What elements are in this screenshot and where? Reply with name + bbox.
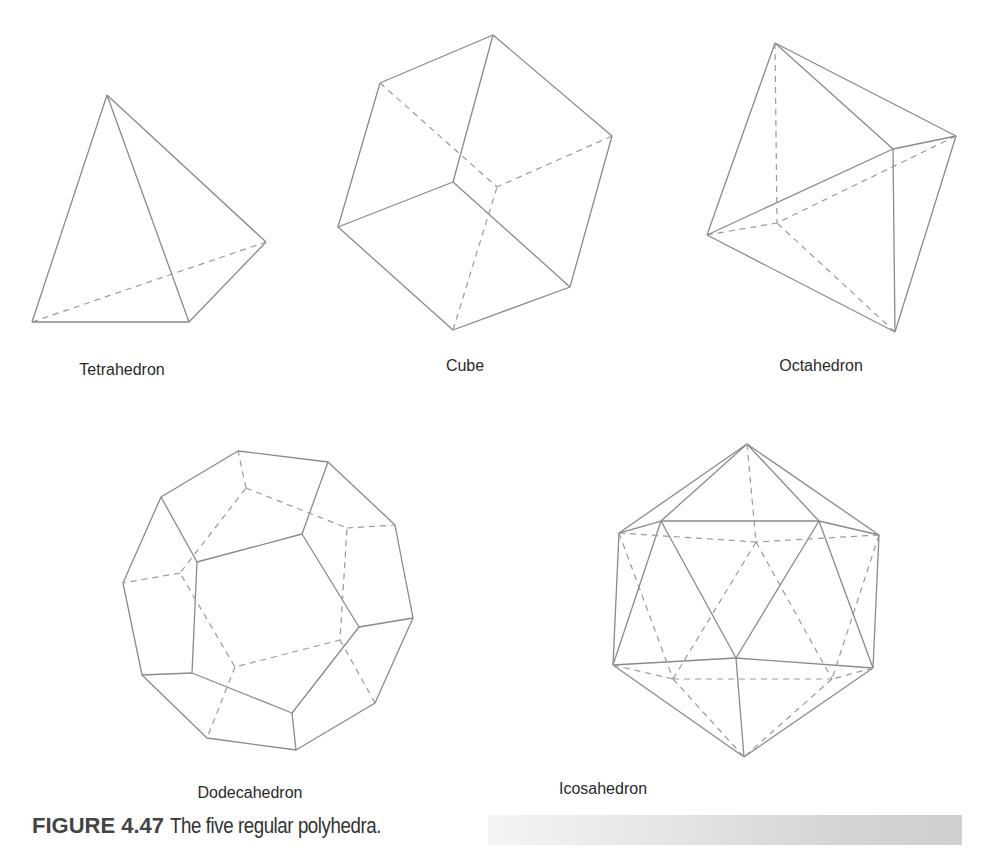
octahedron-label: Octahedron bbox=[779, 357, 863, 375]
tetrahedron-drawing bbox=[32, 95, 266, 322]
tetrahedron-label: Tetrahedron bbox=[79, 361, 164, 379]
figure-number: FIGURE 4.47 bbox=[32, 813, 164, 838]
dodecahedron-label: Dodecahedron bbox=[198, 784, 303, 802]
cube-drawing bbox=[338, 35, 612, 330]
polyhedra-figure bbox=[0, 0, 984, 852]
cube-label: Cube bbox=[446, 357, 484, 375]
figure-caption: FIGURE 4.47 The five regular polyhedra. bbox=[32, 813, 418, 839]
figure-caption-text: The five regular polyhedra. bbox=[170, 813, 381, 839]
icosahedron-drawing bbox=[613, 444, 879, 757]
icosahedron-label: Icosahedron bbox=[559, 780, 647, 798]
dodecahedron-drawing bbox=[123, 451, 413, 750]
octahedron-drawing bbox=[707, 43, 956, 332]
caption-decorative-bar bbox=[488, 815, 962, 845]
